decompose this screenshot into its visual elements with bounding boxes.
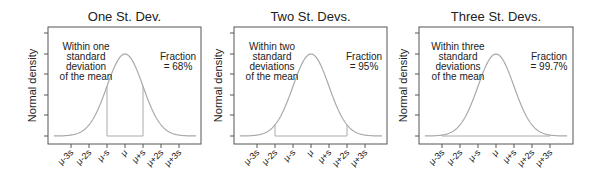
x-tick-label: μ-2s bbox=[445, 147, 465, 167]
x-tick-label: μ+3s bbox=[348, 147, 370, 169]
y-axis-label: Normal density bbox=[212, 48, 224, 122]
x-tick-label: μ+3s bbox=[533, 147, 555, 169]
x-tick-label: μ-s bbox=[95, 147, 111, 163]
chart-panel-2: Two St. Devs.Normal densityμ-3sμ-2sμ-sμμ… bbox=[212, 9, 387, 169]
x-tick-label: μ-3s bbox=[56, 147, 76, 167]
panel-title: Three St. Devs. bbox=[451, 9, 541, 24]
interval-outline bbox=[275, 125, 347, 136]
x-tick-label: μ+2s bbox=[330, 147, 352, 169]
annotation-left-line: of the mean bbox=[60, 71, 113, 82]
x-tick-label: μ-s bbox=[466, 147, 482, 163]
annotation-fraction-line: = 95% bbox=[350, 61, 379, 72]
x-tick-label: μ-s bbox=[281, 147, 297, 163]
x-tick-label: μ-3s bbox=[427, 147, 447, 167]
y-axis-label: Normal density bbox=[397, 48, 409, 122]
x-tick-label: μ bbox=[490, 147, 501, 158]
x-tick-label: μ+3s bbox=[162, 147, 184, 169]
interval-outline bbox=[442, 135, 550, 136]
x-tick-label: μ-2s bbox=[260, 147, 280, 167]
chart-canvas: One St. Dev.Normal densityμ-3sμ-2sμ-sμμ+… bbox=[0, 0, 601, 174]
chart-panel-3: Three St. Devs.Normal densityμ-3sμ-2sμ-s… bbox=[397, 9, 573, 169]
panel-title: One St. Dev. bbox=[88, 9, 161, 24]
interval-outline bbox=[107, 86, 143, 136]
x-tick-label: μ-3s bbox=[242, 147, 262, 167]
x-tick-label: μ+2s bbox=[144, 147, 166, 169]
x-tick-label: μ-2s bbox=[74, 147, 94, 167]
normal-distribution-figure: One St. Dev.Normal densityμ-3sμ-2sμ-sμμ+… bbox=[0, 0, 601, 174]
chart-panel-1: One St. Dev.Normal densityμ-3sμ-2sμ-sμμ+… bbox=[26, 9, 201, 169]
annotation-fraction-line: = 99.7% bbox=[531, 61, 568, 72]
annotation-fraction-line: = 68% bbox=[164, 61, 193, 72]
x-tick-label: μ+2s bbox=[515, 147, 537, 169]
y-axis-label: Normal density bbox=[26, 48, 38, 122]
panel-title: Two St. Devs. bbox=[270, 9, 350, 24]
annotation-left-line: of the mean bbox=[246, 71, 299, 82]
x-tick-label: μ bbox=[119, 147, 130, 158]
annotation-left-line: of the mean bbox=[432, 71, 485, 82]
x-tick-label: μ bbox=[305, 147, 316, 158]
